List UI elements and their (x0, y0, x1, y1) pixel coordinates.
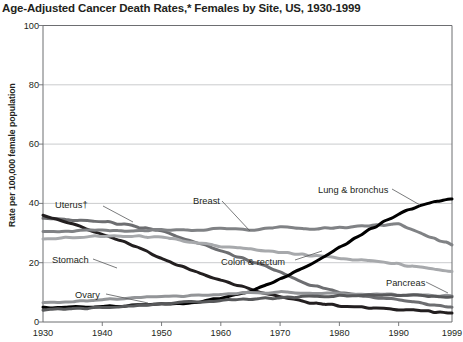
x-tick-label: 1940 (92, 328, 112, 338)
series-label-pancreas: Pancreas (386, 278, 425, 288)
x-tick-label: 1950 (151, 328, 171, 338)
x-tick-label: 1960 (211, 328, 231, 338)
series-label-colon-rectum: Colon & rectum (221, 257, 285, 267)
x-tick-labels: 19301940195019601970198019901999 (0, 0, 463, 342)
chart-container: Rate per 100,000 female population 02040… (0, 0, 463, 342)
x-tick-label: 1930 (33, 328, 53, 338)
series-label-breast: Breast (193, 196, 220, 206)
x-tick-label: 1980 (329, 328, 349, 338)
series-label-ovary: Ovary (75, 290, 100, 300)
x-tick-label: 1990 (388, 328, 408, 338)
series-label-lung: Lung & bronchus (318, 185, 388, 195)
x-tick-label: 1970 (270, 328, 290, 338)
x-tick-label: 1999 (442, 328, 462, 338)
series-label-stomach: Stomach (52, 255, 89, 265)
series-label-uterus: Uterus† (55, 200, 88, 210)
